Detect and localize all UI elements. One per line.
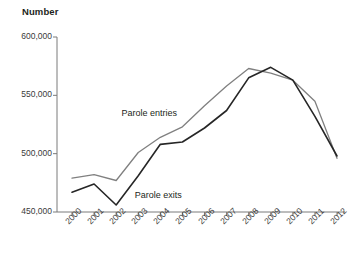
series-annotation: Parole exits xyxy=(135,190,182,200)
series-line-parole-exits xyxy=(72,67,337,205)
axis-lines xyxy=(57,37,345,212)
y-axis-ticks xyxy=(53,37,57,212)
data-series-lines xyxy=(72,67,337,205)
series-annotation: Parole entries xyxy=(122,108,178,118)
series-line-parole-entries xyxy=(72,69,337,181)
parole-line-chart: Number 450,000500,000550,000600,000 2000… xyxy=(0,0,355,253)
